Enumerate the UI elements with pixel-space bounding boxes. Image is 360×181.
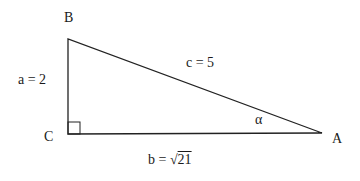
vertex-label-a: A bbox=[332, 132, 342, 146]
side-label-c: c = 5 bbox=[186, 56, 214, 70]
side-label-a: a = 2 bbox=[18, 73, 46, 87]
vertex-label-c: C bbox=[44, 130, 53, 144]
radicand: 21 bbox=[178, 152, 192, 167]
triangle bbox=[68, 39, 322, 134]
radical-sign: √ bbox=[170, 152, 178, 167]
vertex-label-b: B bbox=[64, 11, 73, 25]
angle-label-alpha: α bbox=[255, 113, 262, 127]
side-label-b: b = √21 bbox=[148, 153, 192, 167]
side-label-b-prefix: b = bbox=[148, 152, 170, 167]
right-angle-marker bbox=[68, 122, 80, 134]
